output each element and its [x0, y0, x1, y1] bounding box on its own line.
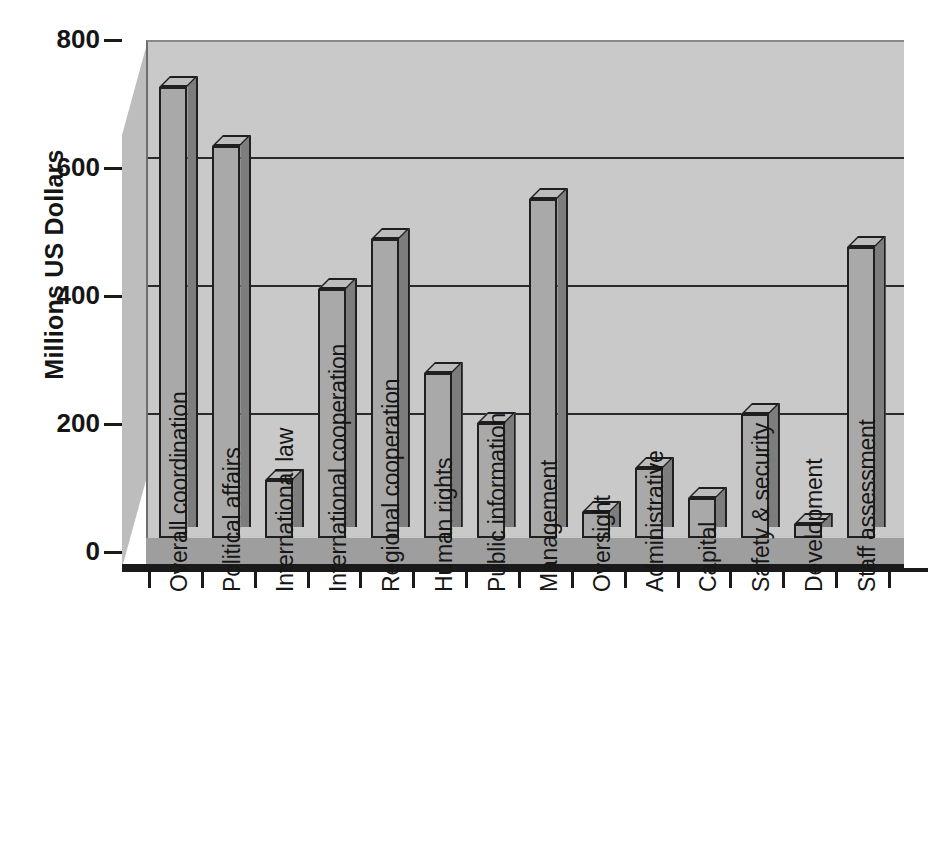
x-tick-mark [465, 572, 468, 588]
x-tick-mark [677, 572, 680, 588]
y-tick-label: 800 [26, 26, 100, 52]
x-axis-label: Safety & security [748, 423, 775, 592]
y-tick-label: 200 [26, 410, 100, 436]
y-tick-mark [104, 167, 122, 170]
x-tick-mark [782, 572, 785, 588]
x-axis-label: Regional cooperation [378, 379, 405, 592]
x-tick-mark [624, 572, 627, 588]
x-axis-label: Administrative [642, 450, 669, 592]
x-axis-label: Staff assessment [854, 419, 881, 592]
x-tick-mark [571, 572, 574, 588]
x-tick-mark [729, 572, 732, 588]
x-tick-mark [359, 572, 362, 588]
x-tick-mark [888, 572, 891, 588]
y-tick-mark [104, 39, 122, 42]
y-tick-mark [104, 295, 122, 298]
y-axis-tick-labels: 800 600 400 200 0 [26, 0, 100, 600]
x-tick-mark [148, 572, 151, 588]
x-tick-mark [201, 572, 204, 588]
y-tick-mark [104, 551, 122, 554]
bar-chart: Millions US Dollars 800 600 400 200 0 Ov… [0, 0, 928, 864]
y-tick-mark [104, 423, 122, 426]
x-axis-label: Public information [484, 413, 511, 592]
x-axis-label: International cooperation [325, 344, 352, 592]
x-axis-label: Political affairs [219, 448, 246, 592]
y-tick-label: 0 [26, 538, 100, 564]
x-tick-mark [254, 572, 257, 588]
x-axis-label: Development [801, 459, 828, 592]
x-axis-label: Management [536, 460, 563, 592]
x-tick-mark [518, 572, 521, 588]
x-tick-mark [307, 572, 310, 588]
y-tick-label: 400 [26, 282, 100, 308]
x-axis-label: Oversight [589, 495, 616, 592]
x-tick-mark [412, 572, 415, 588]
y-tick-label: 600 [26, 154, 100, 180]
x-tick-mark [835, 572, 838, 588]
x-axis-label: Human rights [431, 458, 458, 592]
x-axis-label: Overall coordination [166, 391, 193, 592]
x-axis-label: International law [272, 428, 299, 592]
x-axis-label: Capital [695, 522, 722, 592]
